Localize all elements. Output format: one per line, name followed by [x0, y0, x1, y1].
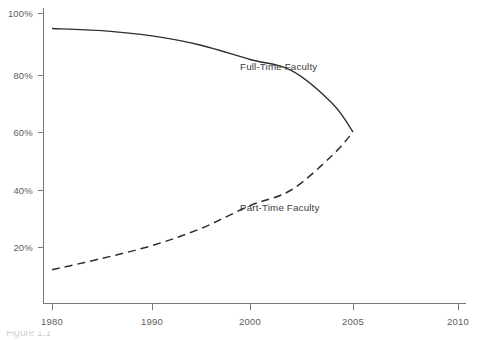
clipped-caption-text: Figure 1.1	[6, 331, 186, 338]
y-tick-label-80: 80%	[13, 70, 33, 81]
x-tick-label-1980: 1980	[41, 316, 63, 327]
y-tick-label-20: 20%	[13, 242, 33, 253]
series-line-full-time	[52, 29, 353, 133]
y-tick-label-100: 100%	[8, 8, 33, 19]
y-tick-label-40: 40%	[13, 185, 33, 196]
x-tick-label-2000: 2000	[239, 316, 261, 327]
x-tick-label-2010: 2010	[447, 316, 469, 327]
clipped-figure-caption: Figure 1.1	[6, 331, 186, 340]
x-tick-label-1990: 1990	[141, 316, 163, 327]
series-annotation-part-time: Part-Time Faculty	[240, 202, 320, 213]
line-chart-canvas: 100% 80% 60% 40% 20% 1980 1990 2000 2005…	[0, 0, 479, 340]
chart-figure: 100% 80% 60% 40% 20% 1980 1990 2000 2005…	[0, 0, 479, 340]
x-tick-label-2005: 2005	[342, 316, 364, 327]
series-line-part-time	[52, 132, 353, 270]
y-tick-label-60: 60%	[13, 127, 33, 138]
series-annotation-full-time: Full-Time Faculty	[240, 61, 317, 72]
